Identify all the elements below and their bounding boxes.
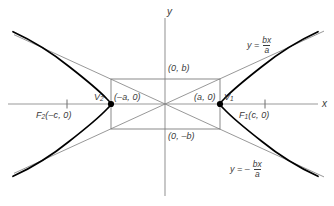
focus-right-label: F1(c, 0) — [239, 110, 269, 120]
asymptote-negative-fraction: bx a — [252, 160, 263, 178]
x-axis-label: x — [322, 98, 327, 109]
vertex-right-marker: V1 — [224, 92, 234, 102]
focus-right-coord: (c, 0) — [248, 110, 269, 120]
vertex-right-marker-sub: 1 — [230, 95, 234, 102]
point-label-b-negative: (0, –b) — [168, 131, 195, 141]
focus-left-coord: (–c, 0) — [45, 110, 71, 120]
asymptote-positive-denominator: a — [263, 45, 270, 55]
vertex-left-coord: (–a, 0) — [114, 92, 141, 102]
asymptote-negative-equation: y = – bx a — [230, 160, 263, 178]
point-label-b-positive: (0, b) — [168, 63, 190, 73]
focus-left-label: F2(–c, 0) — [36, 110, 72, 120]
asymptote-positive-fraction: bx a — [261, 36, 272, 54]
asymptote-negative-slope — [14, 35, 324, 177]
vertex-right-dot — [217, 101, 223, 107]
asymptote-positive-lead: y = — [247, 40, 259, 50]
asymptote-negative-denominator: a — [254, 169, 261, 179]
asymptote-positive-equation: y = bx a — [247, 36, 272, 54]
asymptote-positive-numerator: bx — [261, 36, 272, 45]
figure-canvas — [0, 0, 334, 206]
y-axis-label: y — [167, 6, 172, 17]
hyperbola-figure: y x (0, b) (0, –b) V2 (–a, 0) (a, 0) V1 … — [0, 0, 334, 206]
asymptote-positive-slope — [14, 31, 324, 173]
vertex-left-marker-sub: 2 — [100, 95, 104, 102]
asymptote-negative-numerator: bx — [252, 160, 263, 169]
vertex-right-coord: (a, 0) — [194, 92, 216, 102]
vertex-left-marker: V2 — [94, 92, 104, 102]
asymptote-negative-lead: y = – — [230, 164, 250, 174]
